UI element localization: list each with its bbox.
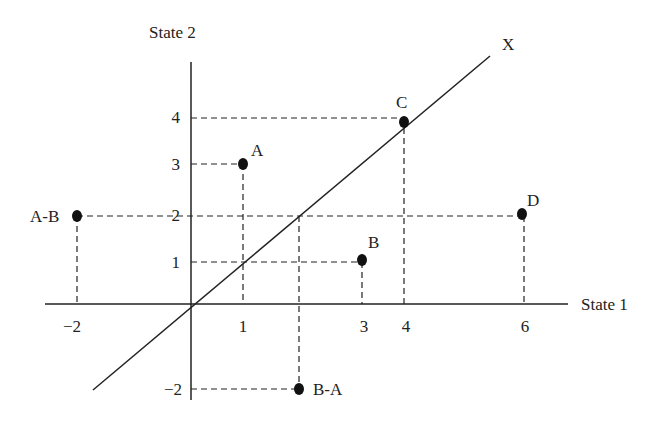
x-tick-6: 6 (521, 317, 530, 336)
y-tick-1: 1 (172, 253, 181, 272)
x-tick-3: 3 (360, 317, 369, 336)
point-b (357, 254, 367, 266)
y-axis-label: State 2 (149, 23, 196, 42)
label-b-minus-a: B-A (313, 380, 343, 399)
point-b-minus-a (294, 383, 304, 395)
point-c (399, 116, 409, 128)
label-a-minus-b: A-B (30, 207, 59, 226)
y-tick-m2: −2 (164, 380, 182, 399)
line-x-label: X (502, 35, 514, 54)
label-d: D (527, 191, 539, 210)
y-tick-3: 3 (172, 155, 181, 174)
point-d (517, 208, 527, 220)
x-tick-m2: −2 (63, 317, 81, 336)
point-a-minus-b (72, 210, 82, 222)
x-tick-1: 1 (239, 317, 248, 336)
label-c: C (396, 93, 407, 112)
y-tick-2: 2 (172, 206, 181, 225)
state-space-diagram: State 2 State 1 X A B C D A-B B-A −2 1 3… (0, 0, 656, 424)
y-tick-4: 4 (172, 108, 181, 127)
line-x (93, 56, 490, 390)
x-tick-4: 4 (402, 317, 411, 336)
point-a (238, 158, 248, 170)
guide-lines (77, 118, 524, 389)
x-axis-label: State 1 (581, 295, 628, 314)
label-a: A (251, 141, 264, 160)
label-b: B (368, 233, 379, 252)
